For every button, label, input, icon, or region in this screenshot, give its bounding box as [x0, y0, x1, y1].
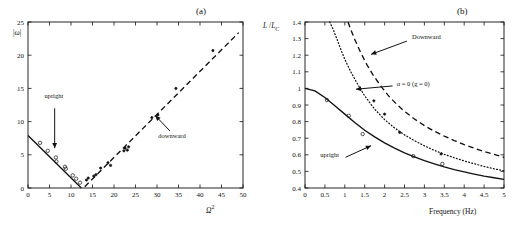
arrow-downward-b-head [371, 50, 377, 55]
data-point-filled [399, 131, 401, 133]
x-tick-label: 15 [89, 191, 97, 199]
panel-a-y-axis-symbol: |ω| [13, 28, 21, 37]
panel-b-x-axis-title: Frequency (Hz) [429, 207, 476, 216]
x-tick-label: 10 [68, 191, 76, 199]
data-point-filled [127, 146, 129, 148]
data-point-filled [87, 177, 89, 179]
x-tick-label: 50 [240, 191, 248, 199]
annotation-label: upright [44, 92, 63, 99]
y-tick-label: 0.6 [292, 151, 301, 159]
y-tick-label: 0.5 [292, 168, 301, 176]
data-point-filled [440, 153, 442, 155]
panel-a-label: (a) [196, 6, 206, 16]
x-tick-label: 2 [383, 191, 387, 199]
panel-a-tick-labels: 051015202530354045500510152025 [17, 19, 247, 199]
data-point-filled [212, 49, 214, 51]
x-tick-label: 45 [218, 191, 226, 199]
x-tick-label: 0.5 [321, 191, 330, 199]
arrow-upright-a-head [52, 143, 57, 148]
panel-a-annotations: uprightdownward [44, 92, 186, 148]
panel-b-label: (b) [457, 6, 468, 16]
data-point-open [46, 149, 49, 152]
x-tick-label: 1.5 [360, 191, 369, 199]
x-tick-label: 0 [26, 191, 30, 199]
data-point-filled [109, 164, 111, 166]
annotation-label: Downward [412, 33, 442, 40]
data-point-open [361, 132, 364, 135]
x-tick-label: 5 [502, 191, 506, 199]
annotation-label: α = 0 (g = 0) [397, 80, 430, 88]
data-point-open [78, 181, 81, 184]
data-point-filled [100, 167, 102, 169]
panel-a-plot: 051015202530354045500510152025 uprightdo… [0, 0, 261, 227]
x-tick-label: 35 [175, 191, 183, 199]
data-point-filled [123, 150, 125, 152]
data-point-filled [151, 116, 153, 118]
panel-a: (a) 051015202530354045500510152025 uprig… [0, 0, 261, 227]
panel-a-series [28, 33, 239, 188]
panel-b-annotations: Downwardα = 0 (g = 0)upright [320, 33, 441, 158]
data-point-filled [175, 87, 177, 89]
y-tick-label: 1.4 [292, 19, 301, 27]
arrow-alpha-b-shaft [356, 86, 393, 89]
y-tick-label: 0.9 [292, 102, 301, 110]
series-downward [348, 22, 504, 157]
y-tick-label: 5 [21, 151, 25, 159]
x-tick-label: 25 [132, 191, 140, 199]
panel-a-axes [28, 22, 243, 188]
y-tick-label: 25 [17, 19, 25, 27]
panel-b-tick-labels: 00.511.522.533.544.550.40.50.60.70.80.91… [292, 19, 506, 199]
panel-a-x-axis-title: Ω2 [206, 204, 214, 215]
figure-container: (a) 051015202530354045500510152025 uprig… [0, 0, 522, 227]
y-tick-label: 15 [17, 85, 25, 93]
data-point-open [441, 162, 444, 165]
y-tick-label: 0 [21, 185, 25, 193]
y-tick-label: 0.7 [292, 135, 301, 143]
x-tick-label: 0 [303, 191, 307, 199]
x-tick-label: 4.5 [480, 191, 489, 199]
x-tick-label: 3 [423, 191, 427, 199]
x-tick-label: 2.5 [400, 191, 409, 199]
data-point-filled [383, 113, 385, 115]
y-tick-label: 0.8 [292, 118, 301, 126]
y-tick-label: 20 [17, 52, 25, 60]
y-tick-label: 10 [17, 118, 25, 126]
panel-b-plot: 00.511.522.533.544.550.40.50.60.70.80.91… [261, 0, 522, 227]
x-tick-label: 40 [197, 191, 205, 199]
x-tick-label: 3.5 [440, 191, 449, 199]
series-upright [305, 88, 504, 179]
y-tick-label: 0.4 [292, 185, 301, 193]
x-tick-label: 20 [111, 191, 119, 199]
annotation-label: upright [320, 151, 339, 158]
plot-frame [28, 22, 243, 188]
y-tick-label: 1.3 [292, 35, 301, 43]
data-point-open [74, 177, 77, 180]
panel-b-y-axis-subscript: C [275, 26, 279, 32]
series-alpha-zero [330, 22, 504, 171]
panel-a-y-axis-title: |ω| [13, 28, 21, 37]
y-tick-label: 1.1 [292, 68, 301, 76]
data-point-open [38, 141, 41, 144]
data-point-filled [126, 149, 128, 151]
x-tick-label: 30 [154, 191, 162, 199]
y-tick-label: 1 [298, 85, 302, 93]
annotation-label: downward [158, 132, 186, 139]
x-tick-label: 1 [343, 191, 347, 199]
x-tick-label: 4 [462, 191, 466, 199]
y-tick-label: 1.2 [292, 52, 301, 60]
data-point-filled [95, 174, 97, 176]
data-point-filled [373, 100, 375, 102]
data-point-filled [124, 147, 126, 149]
panel-b-y-axis-title: L /LC [263, 21, 279, 32]
data-point-open [71, 174, 74, 177]
data-point-filled [107, 162, 109, 164]
data-point-filled [157, 114, 159, 116]
data-point-open [54, 156, 57, 159]
x-tick-label: 5 [48, 191, 52, 199]
panel-a-x-axis-exponent: 2 [211, 204, 214, 210]
panel-b: (b) 00.511.522.533.544.550.40.50.60.70.8… [261, 0, 522, 227]
arrow-downward-b-shaft [371, 41, 407, 54]
